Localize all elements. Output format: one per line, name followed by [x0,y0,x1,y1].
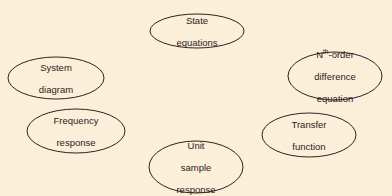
node-label-line: State [176,15,217,26]
node-nth-order-difference-equation: Nth-order difference equation [288,52,382,100]
node-label-line: System [39,62,73,73]
node-frequency-response: Frequency response [27,109,125,153]
node-label-line: diagram [39,84,73,95]
node-label-line: Nth-order [314,49,356,60]
node-label-line: Transfer [291,119,326,130]
node-label-line: Frequency [54,115,99,126]
node-transfer-function: Transfer function [262,113,356,157]
node-label-line: equations [176,37,217,48]
diagram-canvas: State equations System diagram Nth-order… [0,0,392,196]
node-label-suffix: -order [328,49,353,60]
node-label-line: equation [314,93,356,104]
node-label-line: function [291,141,326,152]
node-state-equations: State equations [150,14,244,48]
node-system-diagram: System diagram [8,57,104,99]
node-label-line: sample [176,162,215,173]
node-label-line: response [176,184,215,195]
node-label-line: Unit [176,140,215,151]
node-label-line: response [54,137,99,148]
node-label-line: difference [314,71,356,82]
node-unit-sample-response: Unit sample response [149,141,243,193]
